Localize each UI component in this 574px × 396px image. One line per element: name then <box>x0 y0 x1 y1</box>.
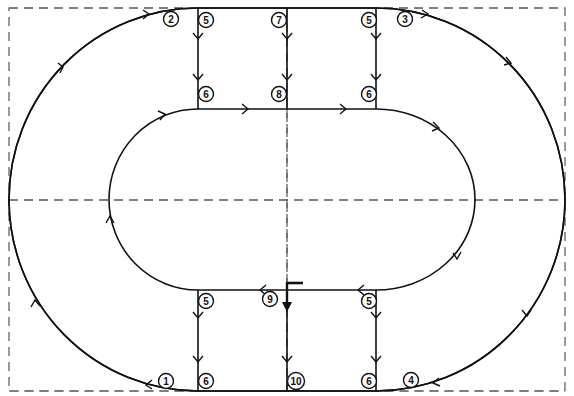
arrow-down-left-icon <box>453 252 461 259</box>
node-label: 4 <box>408 375 414 386</box>
node-label: 5 <box>366 15 372 26</box>
node-n5a: 5 <box>199 13 214 28</box>
arrow-down-left-icon <box>522 310 531 316</box>
flow-diagram: 12345555666678910 <box>0 0 574 396</box>
node-n10: 10 <box>288 373 305 390</box>
node-label: 2 <box>168 14 174 25</box>
node-label: 6 <box>366 89 372 100</box>
node-label: 8 <box>276 89 282 100</box>
node-n5b: 5 <box>362 13 377 28</box>
node-n5c: 5 <box>199 294 214 309</box>
node-n2: 2 <box>164 12 179 27</box>
node-n1: 1 <box>159 374 174 389</box>
node-label: 3 <box>402 14 408 25</box>
node-n7: 7 <box>272 13 287 28</box>
node-n3: 3 <box>398 12 413 27</box>
node-n6d: 6 <box>362 374 377 389</box>
node-label: 7 <box>276 15 282 26</box>
arrow-up-icon <box>106 216 114 223</box>
node-n9: 9 <box>263 292 278 307</box>
start-marker <box>282 282 303 312</box>
node-label: 1 <box>163 376 169 387</box>
node-n6a: 6 <box>199 87 214 102</box>
node-n6c: 6 <box>199 374 214 389</box>
node-label: 9 <box>267 294 273 305</box>
node-n5d: 5 <box>362 294 377 309</box>
node-n6b: 6 <box>362 87 377 102</box>
start-arrow-icon <box>282 302 292 312</box>
node-n8: 8 <box>272 87 287 102</box>
node-n4: 4 <box>404 373 419 388</box>
node-label: 10 <box>290 376 302 387</box>
node-label: 5 <box>203 15 209 26</box>
node-label: 5 <box>366 296 372 307</box>
node-label: 6 <box>203 376 209 387</box>
node-label: 5 <box>203 296 209 307</box>
arrow-left-icon <box>433 378 440 386</box>
node-label: 6 <box>203 89 209 100</box>
arrow-right-icon <box>143 10 149 19</box>
node-label: 6 <box>366 376 372 387</box>
